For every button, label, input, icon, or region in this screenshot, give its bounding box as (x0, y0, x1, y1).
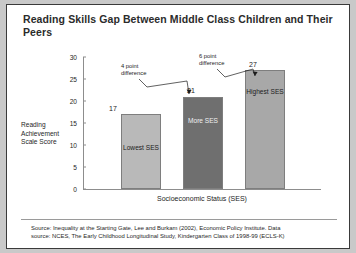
x-axis-line (83, 189, 321, 190)
y-tick-label: 30 (53, 54, 77, 61)
bar-label-highest: Highest SES (245, 88, 285, 96)
screenshot-page: Reading Skills Gap Between Middle Class … (0, 0, 356, 253)
y-tick-label: 10 (53, 142, 77, 149)
source-line-1: Source: Inequality at the Starting Gate,… (31, 224, 331, 232)
y-tick-mark (83, 145, 86, 146)
y-tick-mark (83, 167, 86, 168)
source-divider (21, 219, 337, 220)
y-tick-label: 5 (53, 164, 77, 171)
y-tick-mark (83, 101, 86, 102)
bar-lowest-ses[interactable]: Lowest SES (121, 114, 161, 189)
bar-fill (183, 97, 223, 189)
y-tick-mark (83, 57, 86, 58)
plot-area: 0 5 10 15 20 25 30 Lowest SES (83, 57, 321, 189)
bar-label-text: More SES (188, 117, 218, 124)
annotation-6-point-line1: 6 point (199, 53, 224, 60)
chart-title: Reading Skills Gap Between Middle Class … (23, 13, 335, 39)
chart-area: Reading Achievement Scale Score 0 5 10 1… (21, 45, 337, 217)
y-tick-mark (83, 79, 86, 80)
bar-value-highest: 27 (249, 61, 257, 68)
y-tick-label: 15 (53, 120, 77, 127)
y-tick-label: 0 (53, 186, 77, 193)
y-tick-label: 25 (53, 76, 77, 83)
bar-label-text: Highest SES (246, 88, 283, 95)
source-line-2: source: NCES, The Early Childhood Longit… (31, 232, 331, 240)
y-tick-mark (83, 189, 86, 190)
bar-more-ses[interactable]: More SES (183, 97, 223, 189)
annotation-6-point-line2: difference (199, 60, 224, 67)
annotation-6-point: 6 point difference (199, 53, 224, 67)
bar-highest-ses[interactable]: Highest SES (245, 70, 285, 189)
bar-value-more: 21 (187, 87, 195, 94)
bar-value-lowest: 17 (109, 105, 117, 112)
bar-label-more: More SES (183, 117, 223, 125)
bar-label-lowest: Lowest SES (121, 144, 161, 152)
y-tick-mark (83, 123, 86, 124)
slide-frame: Reading Skills Gap Between Middle Class … (6, 4, 350, 249)
source-note: Source: Inequality at the Starting Gate,… (31, 224, 331, 240)
annotation-4-point-line2: difference (121, 70, 146, 77)
bar-label-text: Lowest SES (123, 144, 159, 151)
annotation-4-point-line1: 4 point (121, 63, 146, 70)
y-tick-label: 20 (53, 98, 77, 105)
x-axis-title: Socioeconomic Status (SES) (83, 195, 321, 202)
annotation-4-point: 4 point difference (121, 63, 146, 77)
